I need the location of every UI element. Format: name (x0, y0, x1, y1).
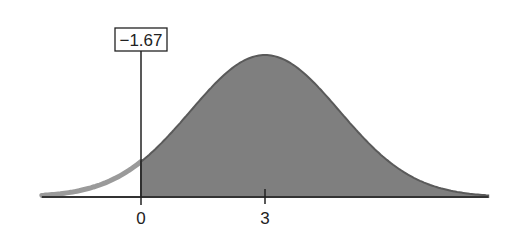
x-tick-label: 3 (260, 209, 269, 228)
z-value-label: −1.67 (119, 31, 162, 50)
shaded-area (141, 55, 488, 197)
normal-distribution-figure: −1.67 03 (0, 0, 516, 249)
unshaded-left-tail (42, 162, 141, 196)
x-tick-label: 0 (136, 209, 145, 228)
